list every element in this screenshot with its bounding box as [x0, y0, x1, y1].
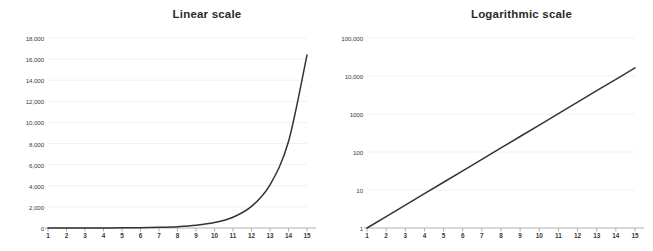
- x-tick-label: 12: [574, 232, 581, 239]
- data-series-line: [48, 55, 307, 228]
- gridlines: [48, 38, 307, 207]
- x-tick-label: 3: [83, 232, 87, 239]
- x-tick-label: 13: [593, 232, 600, 239]
- x-tick-label: 1: [365, 232, 369, 239]
- plot-area-logarithmic: [330, 0, 653, 251]
- x-tick-label: 15: [631, 232, 638, 239]
- x-tick-label: 11: [555, 232, 562, 239]
- x-tick-label: 6: [139, 232, 143, 239]
- data-series-line: [367, 68, 635, 228]
- x-tick-label: 8: [176, 232, 180, 239]
- plot-area-linear: [0, 0, 330, 251]
- x-tick-label: 9: [194, 232, 198, 239]
- x-tick-label: 14: [612, 232, 619, 239]
- x-tick-label: 1: [46, 232, 50, 239]
- x-tick-label: 2: [65, 232, 69, 239]
- x-tick-label: 3: [404, 232, 408, 239]
- x-tick-label: 11: [230, 232, 237, 239]
- x-tick-label: 2: [384, 232, 388, 239]
- x-tick-label: 4: [423, 232, 427, 239]
- figure-two-panel-chart: Linear scale 02,0004,0006,0008,00010,000…: [0, 0, 653, 251]
- x-tick-label: 7: [480, 232, 484, 239]
- x-tick-label: 10: [211, 232, 218, 239]
- x-tick-label: 9: [518, 232, 522, 239]
- x-tick-label: 5: [120, 232, 124, 239]
- x-tick-label: 13: [266, 232, 273, 239]
- gridlines: [367, 38, 635, 190]
- x-tick-label: 6: [461, 232, 465, 239]
- x-tick-label: 10: [536, 232, 543, 239]
- chart-panel-logarithmic: Logarithmic scale 110100100010,000100,00…: [330, 0, 653, 251]
- x-axis-tick-marks: [367, 228, 635, 232]
- x-tick-label: 4: [102, 232, 106, 239]
- x-tick-label: 7: [157, 232, 161, 239]
- x-tick-label: 15: [303, 232, 310, 239]
- chart-panel-linear: Linear scale 02,0004,0006,0008,00010,000…: [0, 0, 330, 251]
- x-tick-label: 14: [285, 232, 292, 239]
- x-tick-label: 8: [499, 232, 503, 239]
- x-tick-label: 12: [248, 232, 255, 239]
- x-tick-label: 5: [442, 232, 446, 239]
